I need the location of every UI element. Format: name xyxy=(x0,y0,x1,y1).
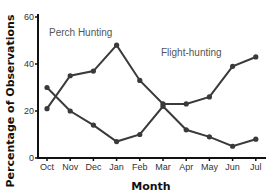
data-point xyxy=(184,127,189,132)
series-line-flight-hunting xyxy=(47,88,256,147)
data-point xyxy=(91,123,96,128)
data-point xyxy=(230,64,235,69)
data-point xyxy=(114,139,119,144)
data-point xyxy=(91,68,96,73)
y-tick-label: 20 xyxy=(24,106,34,116)
data-point xyxy=(160,104,165,109)
data-point xyxy=(137,132,142,137)
data-point xyxy=(207,94,212,99)
data-point xyxy=(230,144,235,149)
x-tick-label: May xyxy=(201,162,219,172)
x-tick-label: Oct xyxy=(40,162,55,172)
y-tick-label: 40 xyxy=(24,59,34,69)
data-point xyxy=(137,78,142,83)
data-point xyxy=(44,106,49,111)
data-point xyxy=(44,85,49,90)
x-tick-label: Apr xyxy=(179,162,193,172)
y-tick-label: 0 xyxy=(29,153,34,163)
y-axis: 0204060 xyxy=(24,12,38,163)
x-tick-label: Jan xyxy=(109,162,124,172)
data-point xyxy=(207,134,212,139)
series-line-perch-hunting xyxy=(47,45,256,108)
data-point xyxy=(184,101,189,106)
data-point xyxy=(114,43,119,48)
data-point xyxy=(68,73,73,78)
x-tick-label: Feb xyxy=(132,162,148,172)
x-tick-label: Jun xyxy=(225,162,240,172)
x-axis-title: Month xyxy=(131,180,170,193)
x-tick-label: Nov xyxy=(62,162,79,172)
data-point xyxy=(253,54,258,59)
data-point xyxy=(68,108,73,113)
data-point xyxy=(253,137,258,142)
y-axis-title: Percentage of Observations xyxy=(4,14,17,187)
x-axis: OctNovDecJanFebMarAprMayJunJul xyxy=(37,158,266,172)
x-tick-label: Mar xyxy=(155,162,171,172)
series-lines xyxy=(44,43,258,149)
line-chart: 0204060 OctNovDecJanFebMarAprMayJunJul P… xyxy=(0,0,276,196)
x-tick-label: Dec xyxy=(85,162,102,172)
x-tick-label: Jul xyxy=(250,162,262,172)
y-tick-label: 60 xyxy=(24,12,34,22)
annotation-perch-hunting: Perch Hunting xyxy=(49,27,112,38)
annotation-flight-hunting: Flight-hunting xyxy=(161,47,222,58)
